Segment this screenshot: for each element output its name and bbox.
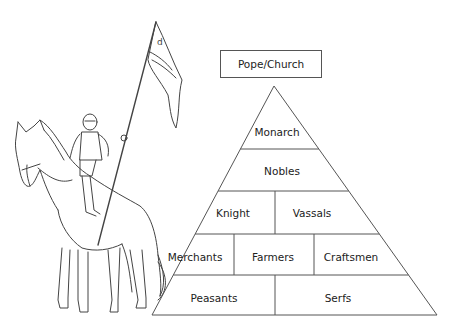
label-vassals: Vassals (293, 207, 332, 219)
svg-text:d: d (157, 37, 163, 47)
knight-horse-illustration: d (15, 22, 182, 312)
label-craftsmen: Craftsmen (324, 251, 379, 263)
label-peasants: Peasants (191, 292, 238, 304)
label-nobles: Nobles (264, 165, 300, 177)
label-knight: Knight (216, 207, 250, 219)
label-pope-church: Pope/Church (238, 58, 304, 70)
pyramid-outline (152, 86, 437, 315)
label-farmers: Farmers (252, 251, 294, 263)
hierarchy-pyramid (152, 86, 437, 315)
label-merchants: Merchants (168, 251, 223, 263)
label-monarch: Monarch (254, 126, 299, 138)
label-serfs: Serfs (325, 292, 352, 304)
